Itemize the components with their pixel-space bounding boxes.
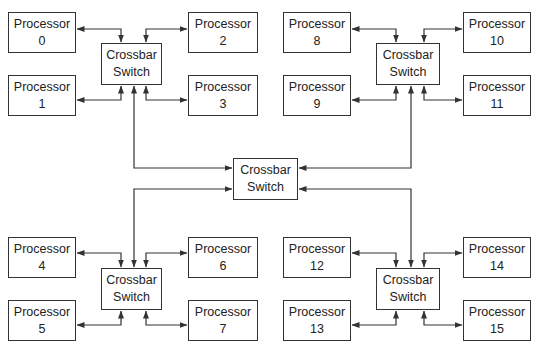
processor-id: 12 <box>310 258 324 275</box>
crossbar-switch-top-left: Crossbar Switch <box>101 43 162 85</box>
processor-label: Processor <box>469 304 525 321</box>
processor-label: Processor <box>289 79 345 96</box>
processor-label: Processor <box>14 241 70 258</box>
switch-label-line1: Crossbar <box>106 47 157 64</box>
processor-id: 10 <box>490 33 504 50</box>
processor-3: Processor 3 <box>188 75 258 116</box>
processor-label: Processor <box>14 79 70 96</box>
processor-id: 7 <box>220 321 227 338</box>
processor-label: Processor <box>289 304 345 321</box>
processor-14: Processor 14 <box>463 237 531 278</box>
switch-label-line1: Crossbar <box>383 47 434 64</box>
processor-1: Processor 1 <box>8 75 76 116</box>
processor-id: 5 <box>39 321 46 338</box>
processor-0: Processor 0 <box>8 12 76 53</box>
processor-11: Processor 11 <box>463 75 531 116</box>
processor-5: Processor 5 <box>8 300 76 341</box>
processor-7: Processor 7 <box>188 300 258 341</box>
processor-10: Processor 10 <box>463 12 531 53</box>
processor-6: Processor 6 <box>188 237 258 278</box>
switch-label-line1: Crossbar <box>240 162 291 179</box>
processor-id: 9 <box>314 96 321 113</box>
processor-id: 6 <box>220 258 227 275</box>
processor-13: Processor 13 <box>283 300 351 341</box>
central-crossbar-switch: Crossbar Switch <box>233 158 298 200</box>
processor-id: 0 <box>39 33 46 50</box>
processor-id: 4 <box>39 258 46 275</box>
processor-id: 2 <box>220 33 227 50</box>
processor-id: 13 <box>310 321 324 338</box>
processor-12: Processor 12 <box>283 237 351 278</box>
processor-id: 3 <box>220 96 227 113</box>
processor-label: Processor <box>289 16 345 33</box>
processor-9: Processor 9 <box>283 75 351 116</box>
processor-id: 14 <box>490 258 504 275</box>
processor-label: Processor <box>195 304 251 321</box>
processor-label: Processor <box>14 304 70 321</box>
processor-label: Processor <box>195 241 251 258</box>
processor-id: 8 <box>314 33 321 50</box>
processor-label: Processor <box>14 16 70 33</box>
crossbar-switch-bottom-left: Crossbar Switch <box>101 268 162 310</box>
processor-id: 15 <box>490 321 504 338</box>
processor-15: Processor 15 <box>463 300 531 341</box>
processor-4: Processor 4 <box>8 237 76 278</box>
switch-label-line1: Crossbar <box>106 272 157 289</box>
crossbar-switch-bottom-right: Crossbar Switch <box>376 268 440 310</box>
switch-label-line2: Switch <box>113 289 150 306</box>
processor-label: Processor <box>469 16 525 33</box>
processor-id: 1 <box>39 96 46 113</box>
crossbar-switch-top-right: Crossbar Switch <box>376 43 440 85</box>
processor-label: Processor <box>289 241 345 258</box>
switch-label-line2: Switch <box>247 179 284 196</box>
crossbar-diagram: Crossbar Switch Crossbar Switch Processo… <box>0 0 543 354</box>
processor-label: Processor <box>195 16 251 33</box>
processor-id: 11 <box>491 96 504 113</box>
switch-label-line2: Switch <box>390 289 427 306</box>
processor-2: Processor 2 <box>188 12 258 53</box>
processor-label: Processor <box>469 241 525 258</box>
switch-label-line2: Switch <box>113 64 150 81</box>
switch-label-line1: Crossbar <box>383 272 434 289</box>
processor-8: Processor 8 <box>283 12 351 53</box>
processor-label: Processor <box>195 79 251 96</box>
processor-label: Processor <box>469 79 525 96</box>
switch-label-line2: Switch <box>390 64 427 81</box>
